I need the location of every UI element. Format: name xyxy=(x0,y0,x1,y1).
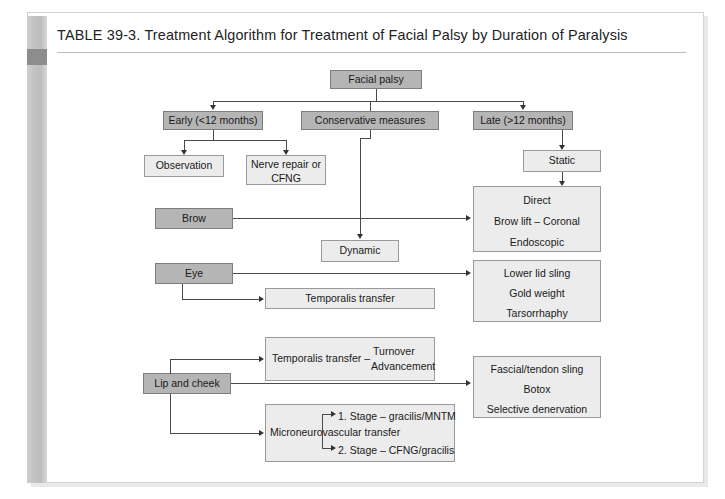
connector-micro-stage1-h xyxy=(322,414,331,415)
arrow-micro-stage2 xyxy=(331,445,336,451)
node-brow-lift-line1: Direct xyxy=(474,194,600,215)
node-lip-static-line1: Fascial/tendon sling xyxy=(474,363,600,383)
node-micro-stage1: 1. Stage – gracilis/MNTM xyxy=(338,410,456,424)
node-observation-label: Observation xyxy=(156,159,213,173)
page-root: TABLE 39-3. Treatment Algorithm for Trea… xyxy=(0,0,725,499)
connector-brow-to-browlift xyxy=(233,218,466,219)
node-lip-static-line3: Selective denervation xyxy=(474,403,600,417)
connector-micro-stage2-v xyxy=(322,433,323,448)
node-lip-static-options[interactable]: Fascial/tendon sling Botox Selective den… xyxy=(473,356,601,418)
node-dynamic[interactable]: Dynamic xyxy=(321,240,399,262)
node-eye-static-line2: Gold weight xyxy=(474,287,600,307)
node-eye[interactable]: Eye xyxy=(155,263,233,284)
node-facial-palsy[interactable]: Facial palsy xyxy=(330,70,422,89)
arrow-eye-to-eyestatic xyxy=(466,270,471,276)
connector-static-to-browlift xyxy=(562,172,563,181)
connector-micro-stage2-h xyxy=(322,448,331,449)
node-temporalis-transfer-label: Temporalis transfer xyxy=(305,292,394,306)
arrow-brow-to-browlift xyxy=(466,215,471,221)
node-early-label: Early (<12 months) xyxy=(169,114,258,128)
node-temporalis-split[interactable]: Temporalis transfer – Turnover Advanceme… xyxy=(265,337,435,381)
connector-conservative-stub xyxy=(370,130,371,138)
connector-lip-down xyxy=(170,394,171,433)
node-dynamic-label: Dynamic xyxy=(340,244,381,258)
connector-root-bus xyxy=(213,101,523,102)
arrow-eye-to-temporalis xyxy=(259,296,264,302)
node-early[interactable]: Early (<12 months) xyxy=(163,111,263,130)
node-temporalis-split-advancement: Advancement xyxy=(371,359,435,374)
node-late-label: Late (>12 months) xyxy=(480,114,566,128)
node-eye-static-options[interactable]: Lower lid sling Gold weight Tarsorrhaphy xyxy=(473,260,601,322)
node-nerve-repair-line1: Nerve repair or xyxy=(247,158,325,172)
connector-lip-to-lipstatic xyxy=(231,383,466,384)
node-micro-transfer-label: Microneurovascular transfer xyxy=(270,426,400,440)
arrow-lip-to-micro xyxy=(259,430,264,436)
connector-root-stub xyxy=(376,89,377,101)
node-observation[interactable]: Observation xyxy=(144,155,224,177)
node-conservative-measures[interactable]: Conservative measures xyxy=(301,111,439,130)
node-brow-lift-options[interactable]: Direct Brow lift – Coronal Endoscopic xyxy=(473,186,601,252)
node-temporalis-split-turnover: Turnover xyxy=(371,344,435,359)
node-late[interactable]: Late (>12 months) xyxy=(473,111,573,130)
node-eye-static-line1: Lower lid sling xyxy=(474,267,600,287)
node-static[interactable]: Static xyxy=(523,150,601,172)
connector-eye-to-temporalis xyxy=(182,299,259,300)
node-conservative-measures-label: Conservative measures xyxy=(315,114,425,128)
node-temporalis-split-main: Temporalis transfer – xyxy=(272,352,370,366)
arrow-root-to-late xyxy=(520,105,526,110)
flowchart-canvas: Facial palsy Early (<12 months) Conserva… xyxy=(0,0,725,499)
arrow-lip-to-lipstatic xyxy=(466,380,471,386)
connector-early-stub xyxy=(213,130,214,140)
node-brow-label: Brow xyxy=(182,212,206,226)
connector-conservative-elbow xyxy=(360,138,371,139)
node-micro-transfer[interactable]: Microneurovascular transfer 1. Stage – g… xyxy=(265,404,455,462)
connector-lip-up xyxy=(170,359,171,374)
node-nerve-repair-cfng[interactable]: Nerve repair or CFNG xyxy=(246,155,326,185)
node-brow-lift-line3: Endoscopic xyxy=(474,236,600,250)
node-brow-lift-line2: Brow lift – Coronal xyxy=(474,215,600,236)
node-eye-label: Eye xyxy=(185,267,203,281)
connector-eye-to-eyestatic xyxy=(233,273,466,274)
node-facial-palsy-label: Facial palsy xyxy=(348,73,403,87)
connector-conservative-drop xyxy=(360,138,361,234)
arrow-micro-stage1 xyxy=(331,411,336,417)
connector-late-to-static xyxy=(562,130,563,145)
node-lip-static-line2: Botox xyxy=(474,383,600,403)
node-micro-stage2: 2. Stage – CFNG/gracilis xyxy=(338,444,454,458)
arrow-conservative-to-dynamic xyxy=(357,234,363,239)
node-lip-and-cheek-label: Lip and cheek xyxy=(154,377,219,391)
connector-lip-to-temporalis-split xyxy=(170,359,259,360)
node-lip-and-cheek[interactable]: Lip and cheek xyxy=(143,373,231,394)
connector-root-to-conservative xyxy=(370,101,371,111)
node-eye-static-line3: Tarsorrhaphy xyxy=(474,307,600,321)
connector-micro-stage1-v xyxy=(322,414,323,433)
connector-early-to-observation xyxy=(184,140,185,150)
connector-lip-to-micro xyxy=(170,433,259,434)
connector-eye-drop xyxy=(182,284,183,299)
node-brow[interactable]: Brow xyxy=(155,208,233,229)
node-temporalis-split-options: Turnover Advancement xyxy=(371,344,435,374)
node-nerve-repair-line2: CFNG xyxy=(247,172,325,186)
arrow-lip-to-temporalis-split xyxy=(259,356,264,362)
node-temporalis-transfer[interactable]: Temporalis transfer xyxy=(265,288,435,309)
node-static-label: Static xyxy=(549,154,575,168)
arrow-root-to-early xyxy=(210,105,216,110)
connector-early-to-nerve-repair xyxy=(286,140,287,150)
connector-early-bus xyxy=(184,140,286,141)
